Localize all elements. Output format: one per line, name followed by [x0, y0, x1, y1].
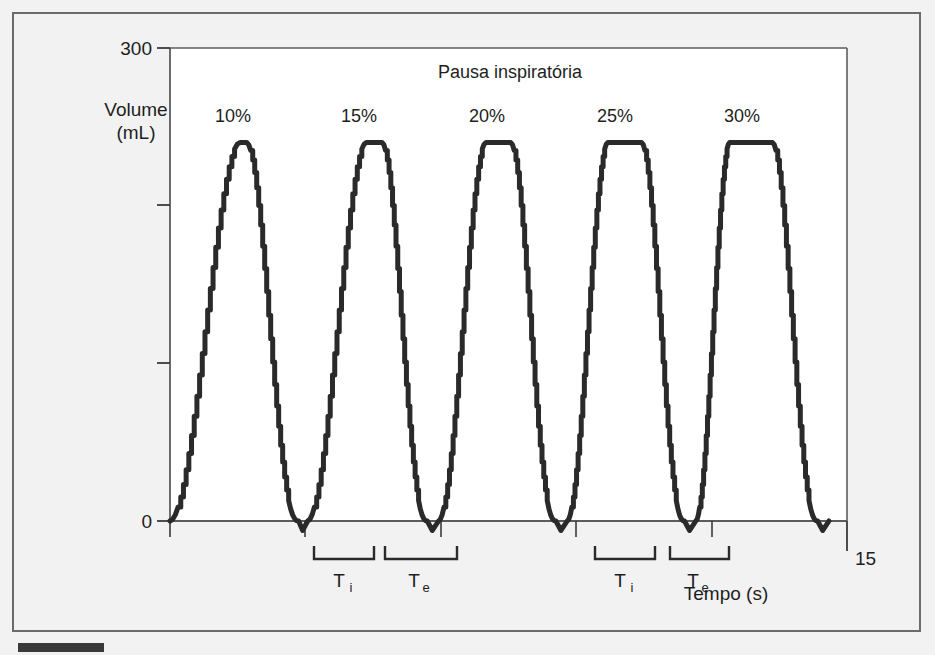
x-axis-ticks: [170, 521, 847, 551]
chart-title: Pausa inspiratória: [438, 62, 583, 82]
figure-frame: 300 0 15 Volume (mL) Tempo (s) Pausa ins…: [12, 12, 921, 632]
phase-sub-ti-2: i: [631, 580, 634, 595]
phase-sub-ti-1: i: [350, 580, 353, 595]
caption-bar: [18, 643, 104, 652]
phase-label-te-1: T: [408, 570, 420, 591]
phase-sub-te-2: e: [701, 580, 708, 595]
bracket-shape: [595, 546, 655, 559]
bracket-shape: [385, 546, 457, 559]
phase-label-ti-1: T: [333, 570, 345, 591]
phase-bracket-ti-2: T i: [595, 546, 655, 595]
phase-bracket-te-1: T e: [385, 546, 457, 595]
x-tick-label-max: 15: [855, 548, 876, 569]
peak-label-30: 30%: [724, 106, 760, 126]
y-tick-label-min: 0: [141, 511, 152, 532]
y-tick-label-max: 300: [120, 38, 152, 59]
y-axis-label-line2: (mL): [116, 122, 155, 143]
bracket-shape: [670, 546, 729, 559]
figure-page: 300 0 15 Volume (mL) Tempo (s) Pausa ins…: [0, 0, 935, 655]
y-axis-label-line1: Volume: [104, 99, 167, 120]
peak-label-25: 25%: [597, 106, 633, 126]
phase-label-ti-2: T: [614, 570, 626, 591]
peak-label-15: 15%: [341, 106, 377, 126]
phase-label-te-2: T: [687, 570, 699, 591]
phase-bracket-ti-1: T i: [314, 546, 374, 595]
volume-time-chart: 300 0 15 Volume (mL) Tempo (s) Pausa ins…: [14, 14, 919, 630]
phase-sub-te-1: e: [422, 580, 429, 595]
bracket-shape: [314, 546, 374, 559]
peak-label-10: 10%: [215, 106, 251, 126]
peak-label-20: 20%: [469, 106, 505, 126]
